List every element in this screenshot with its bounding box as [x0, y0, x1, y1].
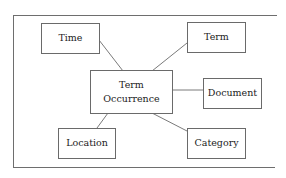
node-time: Time — [41, 23, 100, 54]
node-category: Category — [187, 128, 246, 159]
node-term: Term — [187, 22, 246, 53]
node-document-label: Document — [208, 86, 257, 100]
edge-category — [152, 113, 187, 131]
node-term-label: Term — [204, 30, 229, 44]
node-term-occurrence-line1: Term — [119, 78, 144, 92]
node-location-label: Location — [66, 136, 108, 150]
node-term-occurrence: Term Occurrence — [90, 70, 173, 114]
edge-location — [97, 113, 108, 128]
node-document: Document — [203, 78, 262, 109]
diagram-canvas: Time Term Term Occurrence Document Locat… — [0, 0, 286, 178]
node-time-label: Time — [58, 31, 82, 45]
edge-time — [99, 40, 123, 71]
node-term-occurrence-line2: Occurrence — [103, 92, 159, 106]
node-category-label: Category — [194, 136, 238, 150]
node-location: Location — [58, 128, 116, 159]
edge-term — [152, 43, 187, 71]
